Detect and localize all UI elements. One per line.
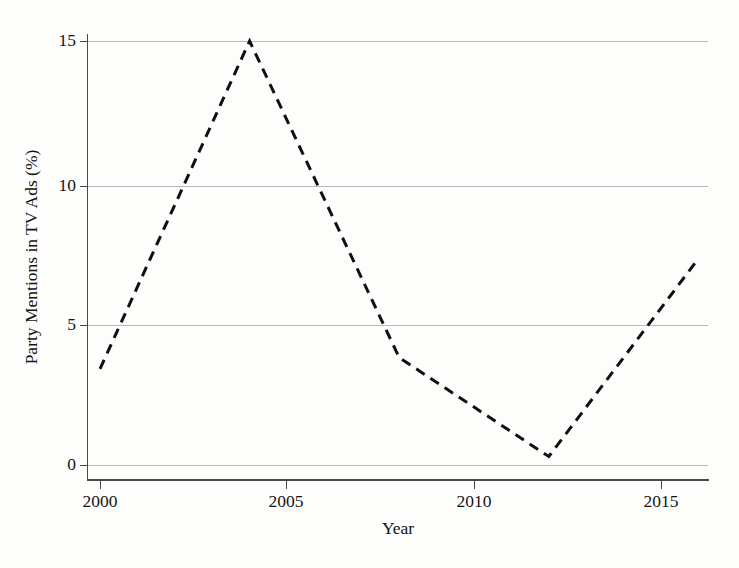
x-tick-label-2005: 2005 xyxy=(246,492,326,511)
gridline-5 xyxy=(88,325,708,326)
gridline-10 xyxy=(88,186,708,187)
x-tick-mark-2015 xyxy=(661,481,662,489)
x-tick-label-2015: 2015 xyxy=(621,492,701,511)
x-tick-mark-2010 xyxy=(474,481,475,489)
y-axis-title-wrap: Party Mentions in TV Ads (%) xyxy=(0,0,60,568)
x-tick-mark-2005 xyxy=(286,481,287,489)
x-tick-label-2010: 2010 xyxy=(434,492,514,511)
chart-figure: 15 10 5 0 2000 2005 2010 2015 Party Ment… xyxy=(0,0,739,568)
y-axis-spine xyxy=(87,34,88,481)
x-axis-title: Year xyxy=(88,518,708,538)
y-tick-mark-0 xyxy=(80,465,87,466)
x-axis-spine xyxy=(87,479,709,481)
gridline-15 xyxy=(88,41,708,42)
y-tick-mark-10 xyxy=(80,186,87,187)
gridline-0 xyxy=(88,465,708,466)
x-tick-label-2000: 2000 xyxy=(60,492,140,511)
y-axis-title: Party Mentions in TV Ads (%) xyxy=(18,34,44,480)
y-tick-mark-15 xyxy=(80,41,87,42)
x-tick-mark-2000 xyxy=(100,481,101,489)
plot-area xyxy=(88,34,708,480)
y-tick-mark-5 xyxy=(80,325,87,326)
